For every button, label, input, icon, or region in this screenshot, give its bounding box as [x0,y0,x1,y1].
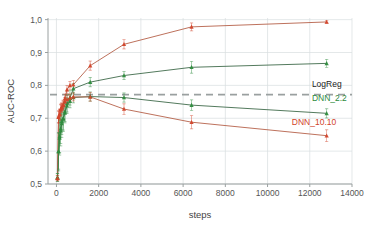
x-axis-label: steps [189,209,212,220]
x-tick-label: 8000 [216,188,235,198]
x-tick-label: 2000 [89,188,108,198]
x-tick-label: 0 [54,188,59,198]
x-tick-label: 14000 [340,188,364,198]
x-tick-label: 10000 [256,188,280,198]
series-annotation-label: LogReg [312,79,342,89]
y-tick-label: 1,0 [30,15,42,25]
x-tick-label: 12000 [298,188,322,198]
y-tick-label: 0,7 [30,113,42,123]
x-tick-label: 6000 [174,188,193,198]
y-tick-label: 0,6 [30,146,42,156]
y-tick-label: 0,8 [30,80,42,90]
y-tick-label: 0,9 [30,48,42,58]
y-tick-label: 0,5 [30,179,42,189]
y-axis-label: AUC-ROC [5,79,16,123]
auc-roc-line-chart: 020004000600080001000012000140000,50,60,… [0,0,375,226]
chart-figure: 020004000600080001000012000140000,50,60,… [0,0,375,226]
series-annotation-label: DNN_2.2 [312,93,347,103]
series-annotation-label: DNN_10.10 [292,117,337,127]
x-tick-label: 4000 [131,188,150,198]
